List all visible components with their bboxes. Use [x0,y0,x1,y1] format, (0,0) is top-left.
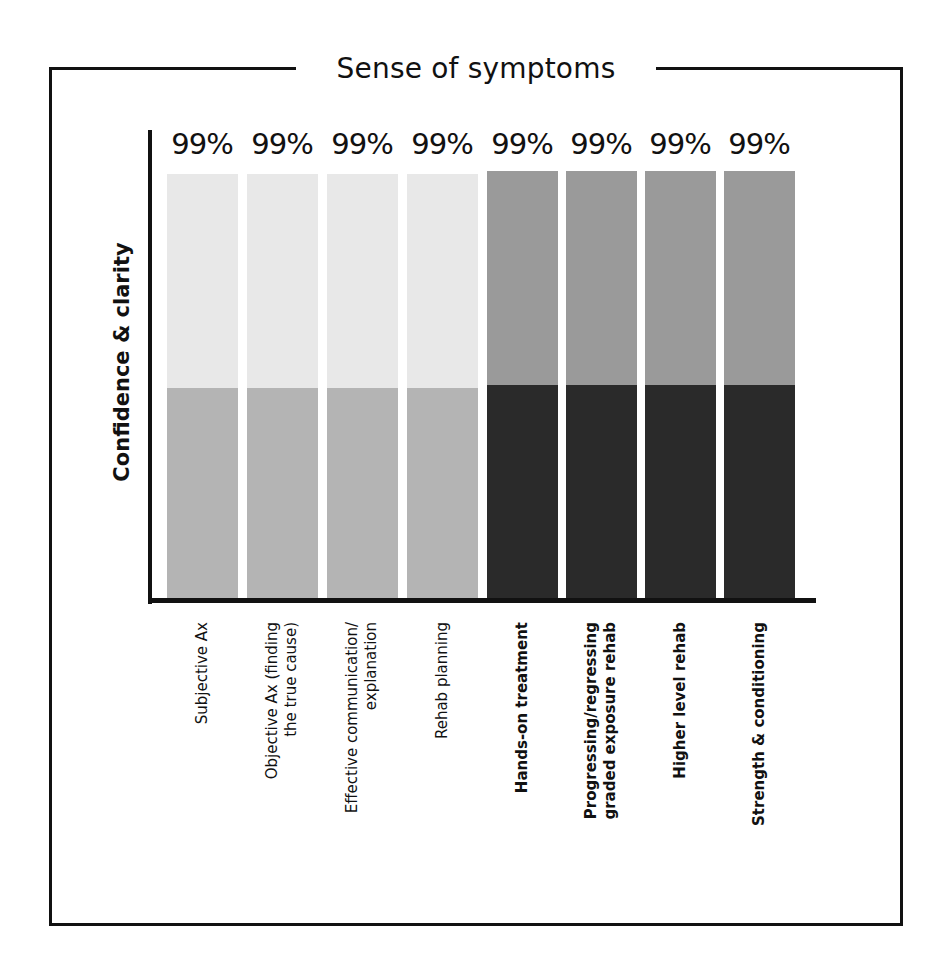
x-axis-category-label: Progressing/regressinggraded exposure re… [582,622,620,820]
y-axis-label: Confidence & clarity [110,242,134,481]
bar-value-label: 99% [397,127,487,161]
y-axis-line [148,130,152,604]
x-axis-category-label: Hands-on treatment [513,622,532,793]
x-axis-category-label: Strength & conditioning [750,622,769,826]
bar-top-segment [487,171,558,385]
bar-top-segment [724,171,795,385]
bar-top-segment [327,174,398,388]
bar [327,174,398,599]
bar-value-label: 99% [556,127,646,161]
bar-bottom-segment [645,385,716,599]
bar-value-label: 99% [237,127,327,161]
bar-value-label: 99% [317,127,407,161]
x-axis-line [148,598,816,603]
bar-bottom-segment [167,388,238,599]
x-axis-category-label: Subjective Ax [193,622,212,724]
x-axis-category-label: Effective communication/explanation [343,622,381,813]
bar-value-label: 99% [635,127,725,161]
x-axis-category-label: Higher level rehab [671,622,690,779]
bar [407,174,478,599]
bar-top-segment [566,171,637,385]
bar-bottom-segment [407,388,478,599]
bar-top-segment [407,174,478,388]
chart-title: Sense of symptoms [296,52,656,85]
bar-value-label: 99% [477,127,567,161]
bar [566,171,637,599]
bar-top-segment [645,171,716,385]
bar-top-segment [167,174,238,388]
x-axis-category-label: Objective Ax (findingthe true cause) [263,622,301,779]
bar-bottom-segment [487,385,558,599]
bar-bottom-segment [327,388,398,599]
bar-top-segment [247,174,318,388]
bar [247,174,318,599]
bar [167,174,238,599]
bar-bottom-segment [724,385,795,599]
bar-bottom-segment [566,385,637,599]
x-axis-category-label: Rehab planning [433,622,452,739]
bar-value-label: 99% [157,127,247,161]
bar [724,171,795,599]
bar [645,171,716,599]
bar [487,171,558,599]
bar-bottom-segment [247,388,318,599]
bar-value-label: 99% [714,127,804,161]
